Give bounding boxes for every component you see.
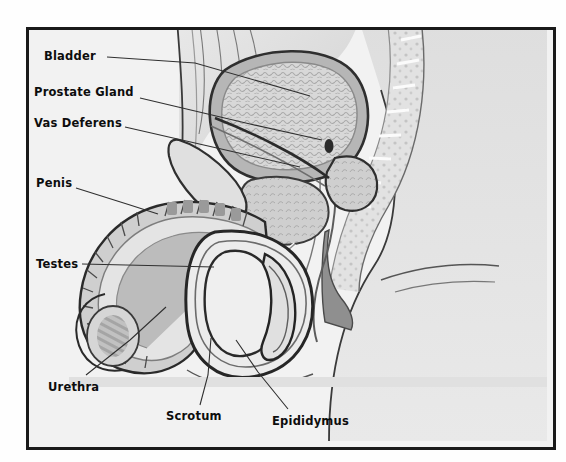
label-epididymus: Epididymus [272,416,349,428]
label-scrotum: Scrotum [166,411,222,423]
label-testes: Testes [36,259,78,271]
label-penis: Penis [36,178,72,190]
label-vas-deferens: Vas Deferens [34,118,122,130]
label-prostate-gland: Prostate Gland [34,87,134,99]
diagram-stage: Bladder Prostate Gland Vas Deferens Peni… [0,0,566,462]
label-urethra: Urethra [48,382,99,394]
label-bladder: Bladder [44,51,96,63]
